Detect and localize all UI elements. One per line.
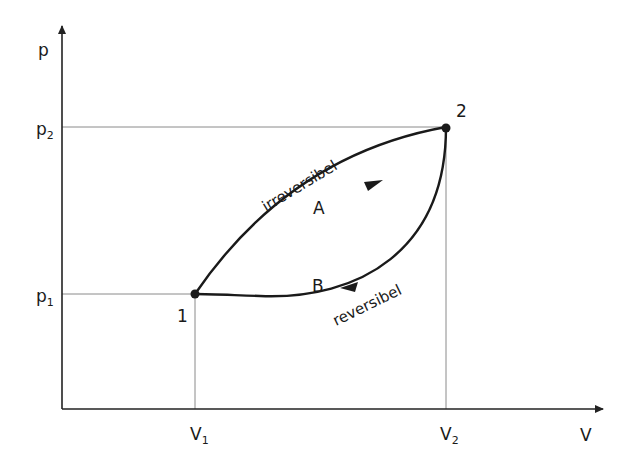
point-1-label: 1	[177, 306, 188, 326]
p2-label: p2	[36, 119, 54, 142]
y-axis-label: p	[38, 40, 49, 60]
path-a-description: irreversibel	[259, 157, 341, 216]
x-axis-label: V	[580, 425, 592, 445]
point-2	[442, 124, 451, 133]
guide-lines	[62, 127, 446, 409]
v1-label: V1	[190, 424, 209, 447]
point-2-label: 2	[456, 101, 467, 121]
pv-diagram: p V p2 p1 V1 V2 1 2 irreversibel A B rev…	[0, 0, 634, 461]
v2-label: V2	[440, 424, 459, 447]
point-1	[191, 290, 200, 299]
p1-label: p1	[36, 286, 54, 309]
path-a-label: A	[313, 198, 325, 218]
path-b-label: B	[312, 276, 324, 296]
arrow-a-icon	[364, 180, 383, 191]
